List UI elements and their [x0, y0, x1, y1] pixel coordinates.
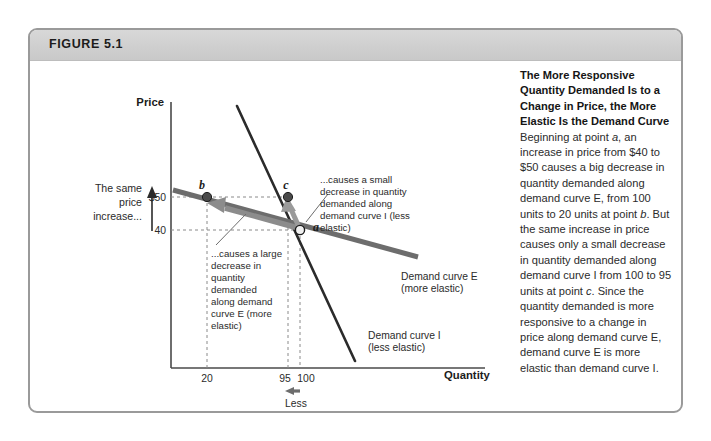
data-point-c-label: c — [283, 178, 289, 192]
data-point-b-label: b — [199, 178, 205, 192]
figure-header-bar: FIGURE 5.1 — [30, 30, 681, 61]
caption-body-2: , an increase in price from $40 to $50 c… — [520, 131, 664, 220]
figure-number-label: FIGURE 5.1 — [49, 37, 123, 51]
curve-label-demand-i: Demand curve I (less elastic) — [368, 330, 441, 353]
small-decrease-line-5: elastic) — [320, 222, 351, 233]
y-tick-label-40: 40 — [154, 225, 166, 236]
caption-title: The More Responsive Quantity Demanded Is… — [520, 69, 669, 127]
curve-label-demand-e: Demand curve E (more elastic) — [401, 271, 478, 294]
demand-curve-chart: Price Quantity — [30, 61, 520, 413]
price-increase-line-3: increase... — [93, 210, 142, 222]
annotation-large-decrease: ...causes a large decrease in quantity d… — [211, 214, 282, 331]
annotation-price-increase: The same price increase... — [93, 182, 157, 231]
large-decrease-line-4: demanded — [211, 284, 257, 295]
x-tick-label-20: 20 — [201, 373, 213, 384]
large-decrease-line-3: quantity — [211, 272, 245, 283]
less-responsive-arrowhead-icon — [285, 387, 294, 395]
data-point-a — [295, 225, 304, 234]
caption-body-0: Beginning at point — [520, 131, 612, 143]
data-point-c — [283, 192, 292, 201]
demand-i-label-line-2: (less elastic) — [368, 342, 425, 353]
large-decrease-line-6: curve E (more — [211, 308, 272, 319]
large-decrease-line-1: ...causes a large — [211, 248, 282, 259]
small-decrease-line-1: ...causes a small — [320, 174, 392, 185]
caption-body-4: . But the same increase in price causes … — [520, 208, 671, 297]
demand-e-label-line-2: (more elastic) — [401, 283, 463, 294]
caption-body-6: . Since the quantity demanded is more re… — [520, 285, 661, 374]
x-tick-label-95: 95 — [279, 373, 291, 384]
large-decrease-line-2: decrease in — [211, 260, 261, 271]
figure-container: FIGURE 5.1 Price Quantity — [28, 28, 683, 413]
price-increase-line-2: price — [119, 196, 142, 208]
less-responsive-line-1: Less — [285, 398, 307, 409]
large-decrease-line-7: elastic) — [211, 320, 242, 331]
large-decrease-line-5: along demand — [211, 296, 272, 307]
data-point-a-label: a — [313, 220, 319, 234]
chart-area: Price Quantity — [30, 61, 520, 413]
demand-e-label-line-1: Demand curve E — [401, 271, 478, 282]
annotation-less-responsive: Less — [285, 387, 307, 409]
price-increase-line-1: The same — [95, 182, 142, 194]
x-axis-title: Quantity — [444, 369, 491, 381]
small-decrease-line-4: demand curve I (less — [320, 210, 410, 221]
x-tick-label-100: 100 — [297, 373, 315, 384]
demand-i-label-line-1: Demand curve I — [368, 330, 441, 341]
annotation-small-decrease: ...causes a small decrease in quantity d… — [306, 174, 410, 233]
data-point-b — [202, 192, 211, 201]
small-decrease-line-2: decrease in quantity — [320, 186, 407, 197]
small-decrease-line-3: demanded along — [320, 198, 392, 209]
caption-block: The More Responsive Quantity Demanded Is… — [520, 68, 672, 376]
y-axis-title: Price — [136, 96, 164, 108]
